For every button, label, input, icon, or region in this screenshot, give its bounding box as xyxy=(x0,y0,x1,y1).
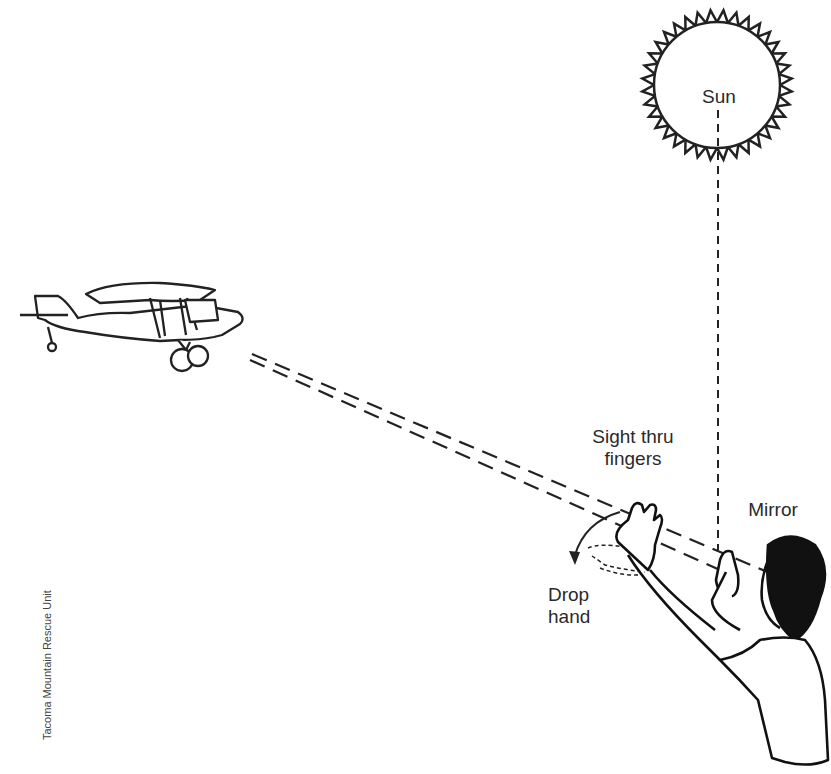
diagram-canvas xyxy=(0,0,831,774)
credit-text: Tacoma Mountain Rescue Unit xyxy=(41,590,53,740)
sight-lines xyxy=(250,354,770,573)
airplane-icon xyxy=(20,283,243,371)
arrow-head-icon xyxy=(569,551,580,565)
sight-label-line2: fingers xyxy=(578,448,688,470)
drop-hand-label: Drop hand xyxy=(548,584,608,628)
drop-label-line1: Drop xyxy=(548,584,608,606)
mirror-label: Mirror xyxy=(738,499,808,521)
sun-label: Sun xyxy=(690,86,748,108)
person-with-mirror xyxy=(616,503,828,764)
drop-hand-arrow xyxy=(575,512,620,555)
sight-label: Sight thru fingers xyxy=(578,426,688,470)
drop-label-line2: hand xyxy=(548,606,608,628)
sight-label-line1: Sight thru xyxy=(578,426,688,448)
sun-icon xyxy=(642,10,791,159)
